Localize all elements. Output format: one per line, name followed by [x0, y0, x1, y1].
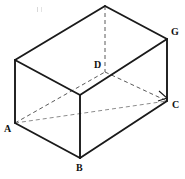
- vertex-label-B: B: [76, 163, 83, 173]
- solid-edge-B-C: [80, 101, 167, 158]
- scan-artifact-speck: [37, 7, 42, 12]
- hidden-edge-D-C: [105, 72, 167, 101]
- vertex-label-C: C: [172, 100, 179, 110]
- vertex-label-A: A: [4, 124, 11, 134]
- vertex-label-G: G: [171, 27, 179, 37]
- rectangular-prism-svg: [0, 0, 185, 179]
- vertex-label-D: D: [94, 60, 101, 70]
- geometry-figure: A B C D G: [0, 0, 185, 179]
- right-angle-marker-at-C: [158, 91, 167, 101]
